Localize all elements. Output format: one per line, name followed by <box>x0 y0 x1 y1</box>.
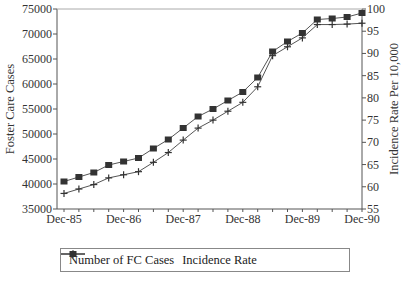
x-tick-label: Dec-88 <box>225 212 260 226</box>
square-marker-icon <box>61 179 68 185</box>
square-marker-icon <box>180 125 187 131</box>
y-axis-label: Foster Care Cases <box>3 64 17 154</box>
square-marker-icon <box>105 162 112 168</box>
y2-tick-label: 100 <box>367 2 385 16</box>
y2-tick-label: 95 <box>367 24 379 38</box>
square-marker-icon <box>344 14 351 20</box>
square-marker-icon <box>150 146 157 152</box>
square-marker-icon <box>239 89 246 95</box>
legend-label: Incidence Rate <box>182 253 257 268</box>
series-line <box>64 13 362 182</box>
y-tick-label: 45000 <box>22 152 52 166</box>
y2-tick-label: 80 <box>367 91 379 105</box>
x-tick-label: Dec-85 <box>46 212 81 226</box>
square-marker-icon <box>195 114 202 120</box>
square-marker-icon <box>359 10 366 16</box>
y2-tick-label: 70 <box>367 135 379 149</box>
y2-tick-label: 65 <box>367 158 379 172</box>
x-tick-label: Dec-87 <box>166 212 201 226</box>
x-tick-label: Dec-86 <box>106 212 141 226</box>
square-marker-icon <box>329 16 336 22</box>
x-tick-label: Dec-89 <box>285 212 320 226</box>
y-tick-label: 55000 <box>22 102 52 116</box>
square-marker-icon <box>165 137 172 143</box>
y2-tick-label: 90 <box>367 46 379 60</box>
square-marker-icon <box>120 159 127 165</box>
square-marker-icon <box>224 98 231 104</box>
square-marker-icon <box>210 106 217 112</box>
square-marker-icon <box>90 170 97 176</box>
y-tick-label: 75000 <box>22 2 52 16</box>
y2-tick-label: 75 <box>367 113 379 127</box>
legend-item-incidence-rate: Incidence Rate <box>182 253 257 268</box>
y-tick-label: 70000 <box>22 27 52 41</box>
x-tick-label: Dec-90 <box>344 212 379 226</box>
y-tick-label: 60000 <box>22 77 52 91</box>
y-tick-label: 40000 <box>22 177 52 191</box>
plus-marker-icon <box>61 249 85 259</box>
square-marker-icon <box>75 174 82 180</box>
legend: Number of FC Cases Incidence Rate <box>60 248 350 272</box>
y2-axis-label: Incidence Rate Per 10,000 <box>387 43 401 175</box>
square-marker-icon <box>254 75 261 81</box>
square-marker-icon <box>135 155 142 161</box>
chart-container: 3500040000450005000055000600006500070000… <box>0 0 405 281</box>
line-chart: 3500040000450005000055000600006500070000… <box>0 0 405 281</box>
y2-tick-label: 60 <box>367 180 379 194</box>
y-tick-label: 50000 <box>22 127 52 141</box>
y-tick-label: 65000 <box>22 52 52 66</box>
y2-tick-label: 85 <box>367 69 379 83</box>
